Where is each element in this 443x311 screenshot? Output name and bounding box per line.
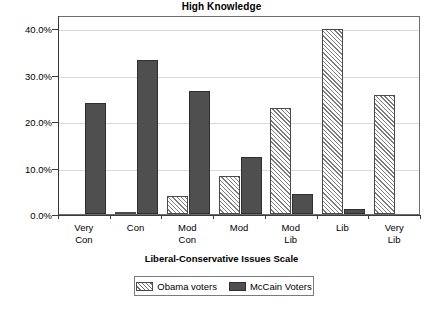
legend-entry-mccain: McCain Voters xyxy=(229,281,312,292)
y-axis-tick-mark xyxy=(52,122,58,123)
gridline xyxy=(59,77,419,78)
bar-mccain-voters-mod-lib xyxy=(292,194,313,214)
legend-label-mccain: McCain Voters xyxy=(250,281,312,292)
x-axis-tick-label: Con xyxy=(110,222,162,234)
bar-obama-voters-mod xyxy=(219,176,240,214)
x-axis-tick-label: ModLib xyxy=(265,222,317,246)
bar-mccain-voters-mod-con xyxy=(189,91,210,214)
x-axis-tick-label: Lib xyxy=(317,222,369,234)
legend-swatch-obama-icon xyxy=(136,282,153,291)
y-axis-tick-label: 0.0% xyxy=(4,210,52,221)
x-axis-line xyxy=(58,215,421,216)
x-axis-tick-label-line2: Lib xyxy=(265,234,317,246)
x-axis-title: Liberal-Conservative Issues Scale xyxy=(0,253,443,264)
bar-obama-voters-mod-con xyxy=(167,196,188,214)
x-axis-tick-label-line1: Very xyxy=(385,222,404,233)
x-axis-tick-label-line1: Mod xyxy=(178,222,196,233)
y-axis-tick-mark xyxy=(52,169,58,170)
x-axis-tick-label: ModCon xyxy=(161,222,213,246)
y-axis-tick-mark xyxy=(52,76,58,77)
legend-label-obama: Obama voters xyxy=(157,281,217,292)
gridline xyxy=(59,123,419,124)
bar-mccain-voters-very-con xyxy=(85,103,106,214)
x-axis-tick-label-line2: Lib xyxy=(368,234,420,246)
y-axis-tick-label: 40.0% xyxy=(4,24,52,35)
gridline xyxy=(59,170,419,171)
y-axis-tick-label: 10.0% xyxy=(4,163,52,174)
x-axis-tick-mark xyxy=(161,215,162,219)
x-axis-tick-label-line2: Con xyxy=(161,234,213,246)
bar-mccain-voters-mod xyxy=(241,157,262,214)
x-axis-tick-label-line1: Lib xyxy=(336,222,349,233)
x-axis-tick-mark xyxy=(420,215,421,219)
bar-obama-voters-con xyxy=(115,212,136,214)
x-axis-tick-label: Mod xyxy=(213,222,265,234)
legend-swatch-mccain-icon xyxy=(229,282,246,291)
chart-container: High Knowledge 0.0%10.0%20.0%30.0%40.0% … xyxy=(0,0,443,311)
y-axis-tick-mark xyxy=(52,215,58,216)
x-axis-tick-label-line1: Very xyxy=(74,222,93,233)
legend-entry-obama: Obama voters xyxy=(136,281,217,292)
y-axis-line xyxy=(58,16,59,216)
bar-obama-voters-mod-lib xyxy=(270,108,291,214)
plot-area xyxy=(58,16,420,215)
y-axis-tick-label: 30.0% xyxy=(4,70,52,81)
y-axis-tick-label: 20.0% xyxy=(4,117,52,128)
bar-obama-voters-very-lib xyxy=(374,95,395,214)
chart-title: High Knowledge xyxy=(0,1,443,12)
x-axis-tick-mark xyxy=(110,215,111,219)
x-axis-tick-label-line1: Con xyxy=(127,222,144,233)
bar-mccain-voters-con xyxy=(137,60,158,214)
chart-legend: Obama voters McCain Voters xyxy=(134,276,314,296)
bar-obama-voters-lib xyxy=(322,29,343,214)
x-axis-tick-label-line1: Mod xyxy=(230,222,248,233)
x-axis-tick-label: VeryLib xyxy=(368,222,420,246)
x-axis-tick-label: VeryCon xyxy=(58,222,110,246)
x-axis-tick-mark xyxy=(213,215,214,219)
gridline xyxy=(59,30,419,31)
x-axis-tick-mark xyxy=(265,215,266,219)
x-axis-tick-mark xyxy=(317,215,318,219)
y-axis-tick-labels: 0.0%10.0%20.0%30.0%40.0% xyxy=(0,0,52,311)
y-axis-tick-mark xyxy=(52,29,58,30)
bar-mccain-voters-lib xyxy=(344,209,365,214)
x-axis-tick-label-line2: Con xyxy=(58,234,110,246)
x-axis-tick-mark xyxy=(58,215,59,219)
x-axis-tick-label-line1: Mod xyxy=(281,222,299,233)
x-axis-tick-mark xyxy=(368,215,369,219)
